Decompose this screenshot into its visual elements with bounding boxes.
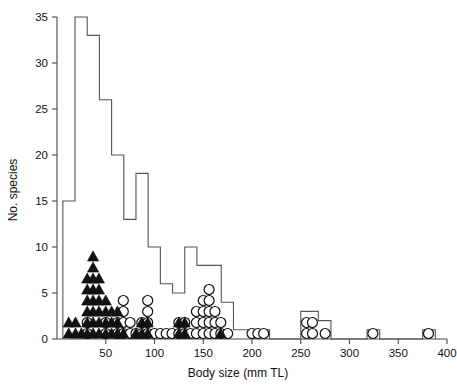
data-point-open-circle [307, 329, 317, 339]
x-tick-label: 400 [437, 347, 456, 359]
x-tick-label: 150 [194, 347, 213, 359]
data-point-open-circle [216, 318, 226, 328]
data-point-open-circle [307, 318, 317, 328]
data-point-filled-triangle [87, 251, 98, 261]
data-point-open-circle [259, 329, 269, 339]
x-tick-label: 350 [389, 347, 408, 359]
x-axis-title: Body size (mm TL) [188, 366, 288, 380]
species-body-size-chart: 5010015020025030035040005101520253035 No… [0, 0, 457, 386]
x-tick-label: 250 [291, 347, 310, 359]
data-point-open-circle [368, 329, 378, 339]
x-tick-label: 50 [99, 347, 112, 359]
data-point-open-circle [320, 329, 330, 339]
data-point-filled-triangle [87, 262, 98, 272]
y-axis-title: No. species [6, 159, 20, 222]
y-tick-label: 10 [35, 241, 48, 253]
y-tick-label: 25 [35, 103, 48, 115]
y-tick-label: 15 [35, 195, 48, 207]
y-tick-label: 0 [42, 333, 48, 345]
x-tick-label: 200 [242, 347, 261, 359]
data-point-open-circle [125, 318, 135, 328]
y-tick-label: 20 [35, 149, 48, 161]
data-point-open-circle [210, 307, 220, 317]
x-tick-label: 300 [340, 347, 359, 359]
y-tick-label: 30 [35, 57, 48, 69]
data-point-open-circle [143, 307, 153, 317]
histogram-outline [63, 17, 435, 339]
marker-points-group [63, 251, 433, 339]
histogram-step-outline [63, 17, 435, 339]
data-point-open-circle [143, 296, 153, 306]
data-point-open-circle [204, 296, 214, 306]
x-tick-label: 100 [145, 347, 164, 359]
y-tick-label: 35 [35, 11, 48, 23]
y-tick-label: 5 [42, 287, 48, 299]
data-point-open-circle [423, 329, 433, 339]
data-point-open-circle [118, 296, 128, 306]
data-point-open-circle [204, 285, 214, 295]
figure-container: 5010015020025030035040005101520253035 No… [0, 0, 457, 386]
